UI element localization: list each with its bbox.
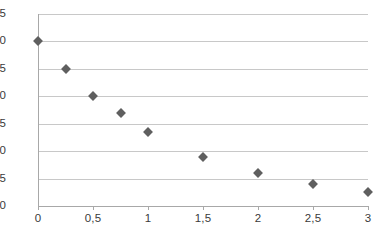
data-point-marker: [116, 108, 126, 118]
y-tick-label: 0,5: [0, 173, 6, 185]
x-tick-mark: [203, 206, 204, 210]
y-tick-label: 3,5: [0, 8, 6, 20]
y-tick-label: 0,0: [0, 200, 6, 212]
y-tick-label: 1,0: [0, 145, 6, 157]
x-tick-label: 0: [18, 213, 58, 225]
data-point-marker: [363, 187, 373, 197]
data-point-marker: [88, 91, 98, 101]
scatter-chart: 0,00,51,01,52,02,53,03,5 00,511,522,53: [0, 0, 380, 241]
y-tick-label: 3,0: [0, 35, 6, 47]
x-tick-mark: [368, 206, 369, 210]
x-tick-label: 2: [238, 213, 278, 225]
data-point-marker: [143, 127, 153, 137]
x-tick-label: 1,5: [183, 213, 223, 225]
x-tick-mark: [38, 206, 39, 210]
y-tick-label: 2,0: [0, 90, 6, 102]
x-tick-mark: [258, 206, 259, 210]
x-tick-label: 0,5: [73, 213, 113, 225]
y-tick-label: 2,5: [0, 63, 6, 75]
data-point-marker: [253, 168, 263, 178]
data-point-marker: [308, 179, 318, 189]
x-tick-label: 2,5: [293, 213, 333, 225]
data-point-marker: [198, 152, 208, 162]
x-tick-mark: [313, 206, 314, 210]
x-tick-label: 1: [128, 213, 168, 225]
y-tick-label: 1,5: [0, 118, 6, 130]
x-tick-label: 3: [348, 213, 380, 225]
plot-area: [38, 14, 368, 206]
x-tick-mark: [148, 206, 149, 210]
data-point-marker: [61, 64, 71, 74]
x-tick-mark: [93, 206, 94, 210]
data-point-marker: [33, 36, 43, 46]
